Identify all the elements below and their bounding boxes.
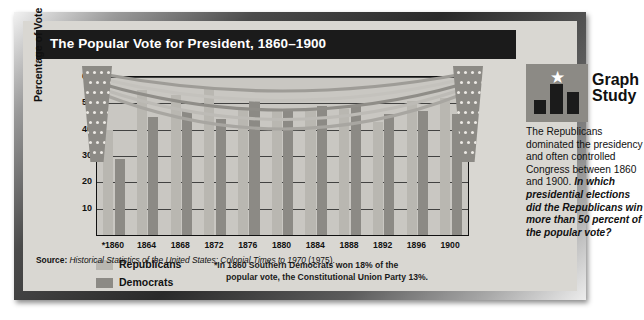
graph-study-body: The Republicans dominated the presidency… xyxy=(526,126,644,239)
title-bar: The Popular Vote for President, 1860–190… xyxy=(36,30,516,59)
legend-swatch-democrats xyxy=(96,278,113,288)
page-title: The Popular Vote for President, 1860–190… xyxy=(50,36,326,51)
y-axis-ticks: 102030405060 xyxy=(68,64,92,234)
logo-bar-2-icon xyxy=(550,84,563,114)
source-year: (1975). xyxy=(308,255,335,265)
bar-democrats-1860 xyxy=(115,159,125,235)
x-axis-tick-label: 1896 xyxy=(407,240,426,250)
graph-study-logo: ★ xyxy=(526,64,588,122)
bar-republicans-1892 xyxy=(373,122,383,235)
bar-group xyxy=(97,77,131,235)
bar-democrats-1880 xyxy=(283,109,293,235)
x-axis-tick-label: 1868 xyxy=(171,240,190,250)
x-axis-tick-label: 1892 xyxy=(373,240,392,250)
source-text: Historical Statistics of the United Stat… xyxy=(70,255,306,265)
x-axis-tick-label: 1872 xyxy=(204,240,223,250)
bar-democrats-1896 xyxy=(418,111,428,235)
x-axis-tick-label: 1888 xyxy=(339,240,358,250)
footnote-line-2: popular vote, the Constitutional Union P… xyxy=(226,272,434,284)
bar-democrats-1884 xyxy=(317,106,327,235)
x-axis-tick-label: 1864 xyxy=(137,240,156,250)
flag-star-dot xyxy=(478,151,481,154)
bar-group xyxy=(434,77,468,235)
y-axis-tick-label: 20 xyxy=(82,176,92,186)
flag-star-dot xyxy=(100,71,103,74)
flag-star-dot xyxy=(93,71,96,74)
flag-star-dot xyxy=(474,121,477,124)
bar-group xyxy=(164,77,198,235)
bar-republicans-1872 xyxy=(204,88,214,235)
flag-star-dot xyxy=(474,81,477,84)
x-axis-tick-label: 1880 xyxy=(272,240,291,250)
flag-star-dot xyxy=(478,111,481,114)
flag-star-dot xyxy=(474,141,477,144)
flag-star-dot xyxy=(481,121,483,124)
y-axis-tick-label: 50 xyxy=(82,97,92,107)
y-axis-tick-label: 30 xyxy=(82,150,92,160)
bar-democrats-1888 xyxy=(351,106,361,235)
x-axis-ticks: *186018641868187218761880188418881892189… xyxy=(96,240,469,254)
flag-star-dot xyxy=(471,151,474,154)
bar-republicans-1884 xyxy=(305,109,315,235)
bar-group xyxy=(367,77,401,235)
bar-republicans-1880 xyxy=(272,109,282,235)
flag-star-dot xyxy=(471,131,474,134)
flag-star-dot xyxy=(471,111,474,114)
bar-democrats-1872 xyxy=(216,119,226,235)
flag-star-dot xyxy=(471,91,474,94)
x-axis-tick-label: 1876 xyxy=(238,240,257,250)
x-axis-tick-label: 1900 xyxy=(441,240,460,250)
plot-area xyxy=(96,76,469,236)
bar-group xyxy=(131,77,165,235)
bar-republicans-1876 xyxy=(238,109,248,235)
bar-democrats-1900 xyxy=(452,114,462,235)
flag-star-dot xyxy=(478,91,481,94)
bar-democrats-1868 xyxy=(182,111,192,235)
graph-study-title-line-1: Graph xyxy=(592,72,639,88)
flag-star-dot xyxy=(478,131,481,134)
flag-star-dot xyxy=(481,81,483,84)
flag-star-dot xyxy=(471,71,474,74)
logo-bar-3-icon xyxy=(567,92,579,114)
bar-group xyxy=(299,77,333,235)
chart-container: Percentage of Vote 102030405060 *1860186… xyxy=(36,64,516,274)
source-label: Source: xyxy=(36,255,67,265)
flag-star-dot xyxy=(457,71,460,74)
bar-republicans-1900 xyxy=(440,98,450,235)
y-axis-label: Percentage of Vote xyxy=(32,8,44,102)
graph-study-title-line-2: Study xyxy=(592,88,639,104)
bar-democrats-1892 xyxy=(384,114,394,235)
bar-group xyxy=(401,77,435,235)
bar-republicans-1888 xyxy=(339,109,349,235)
bar-democrats-1864 xyxy=(148,117,158,236)
flag-star-dot xyxy=(478,71,481,74)
flag-star-dot xyxy=(474,101,477,104)
legend-label-democrats: Democrats xyxy=(119,276,173,288)
bar-democrats-1876 xyxy=(249,101,259,235)
y-axis-tick-label: 60 xyxy=(82,71,92,81)
bar-group xyxy=(232,77,266,235)
graph-study-title: Graph Study xyxy=(592,72,639,104)
bar-group xyxy=(198,77,232,235)
y-axis-tick-label: 10 xyxy=(82,203,92,213)
bar-republicans-1864 xyxy=(137,90,147,235)
bar-republicans-1860 xyxy=(103,130,113,235)
flag-star-dot xyxy=(464,71,467,74)
framed-graphic-plate: The Popular Vote for President, 1860–190… xyxy=(14,12,586,300)
y-axis-tick-label: 40 xyxy=(82,124,92,134)
bar-republicans-1896 xyxy=(407,101,417,235)
bar-group xyxy=(266,77,300,235)
x-axis-tick-label: 1884 xyxy=(306,240,325,250)
bar-republicans-1868 xyxy=(171,95,181,235)
flag-star-dot xyxy=(481,141,483,144)
flag-star-dot xyxy=(107,71,110,74)
source-citation: Source: Historical Statistics of the Uni… xyxy=(36,255,335,265)
bar-group xyxy=(333,77,367,235)
flag-star-dot xyxy=(481,101,483,104)
logo-bar-1-icon xyxy=(534,100,546,114)
x-axis-tick-label: *1860 xyxy=(102,240,124,250)
